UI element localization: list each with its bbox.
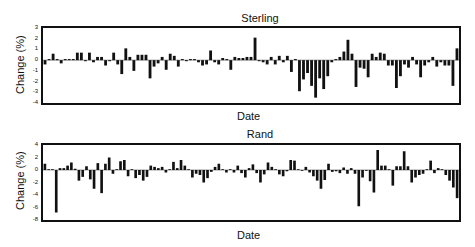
bar: [210, 170, 213, 172]
bar: [176, 168, 179, 170]
bar: [97, 163, 100, 170]
bar: [448, 170, 451, 181]
bar: [407, 166, 410, 170]
bar: [218, 164, 221, 170]
rand-x-axis-label: Date: [237, 229, 260, 241]
bar: [388, 169, 391, 170]
bar: [456, 170, 459, 198]
bar: [327, 164, 330, 170]
bar: [293, 161, 296, 170]
bar: [429, 161, 432, 170]
bar: [229, 169, 232, 170]
bar: [444, 170, 447, 175]
bar: [183, 166, 186, 170]
bar: [206, 170, 209, 178]
bar: [51, 169, 54, 170]
bar: [267, 163, 270, 171]
bar: [85, 166, 88, 170]
bar: [70, 163, 73, 171]
bar: [305, 167, 308, 170]
bar: [342, 168, 345, 171]
bar: [240, 170, 243, 173]
bar: [312, 170, 315, 176]
bar: [373, 170, 376, 193]
bar: [149, 166, 152, 170]
bar: [376, 150, 379, 170]
bar: [47, 169, 50, 170]
bar: [380, 166, 383, 170]
bar: [418, 170, 421, 175]
bar: [274, 169, 277, 170]
bar: [422, 170, 425, 174]
bar: [168, 169, 171, 170]
bar: [414, 170, 417, 178]
bar: [187, 169, 190, 170]
bar: [297, 169, 300, 170]
bar: [331, 170, 334, 172]
bar: [55, 170, 58, 213]
rand-chart: Rand Change (%) 420-2-4-6-8 Date: [0, 0, 475, 247]
bar: [115, 169, 118, 170]
bar: [146, 170, 149, 177]
bar: [131, 169, 134, 170]
bar: [138, 170, 141, 175]
bar: [399, 166, 402, 170]
bar: [127, 170, 130, 176]
bar: [403, 151, 406, 170]
bar: [93, 170, 96, 189]
bar: [365, 170, 368, 171]
bar: [157, 168, 160, 170]
bar: [81, 170, 84, 177]
bar: [395, 166, 398, 170]
bar: [78, 170, 81, 181]
bar: [452, 170, 455, 188]
bar: [225, 170, 228, 173]
bar: [119, 161, 122, 170]
bar: [282, 170, 285, 176]
bar: [74, 169, 77, 170]
bar: [286, 170, 289, 171]
bar: [172, 162, 175, 170]
bar: [361, 170, 364, 178]
bar: [236, 166, 239, 170]
bar: [354, 170, 357, 174]
bar: [199, 170, 202, 175]
bar: [308, 170, 311, 173]
bar: [437, 168, 440, 170]
bar: [123, 160, 126, 170]
bar: [346, 170, 349, 174]
rand-bars: [0, 0, 475, 247]
bar: [104, 164, 107, 170]
bar: [44, 164, 47, 170]
bar: [320, 170, 323, 189]
bar: [112, 170, 115, 174]
bar: [301, 170, 304, 171]
bar: [165, 170, 168, 173]
bar: [195, 170, 198, 174]
bar: [357, 170, 360, 206]
bar: [153, 167, 156, 170]
bar: [248, 168, 251, 170]
bar: [335, 170, 338, 171]
bar: [259, 170, 262, 183]
bar: [221, 169, 224, 170]
bar: [316, 170, 319, 181]
bar: [350, 168, 353, 170]
bar: [441, 169, 444, 170]
bar: [255, 170, 258, 173]
bar: [426, 169, 429, 170]
bar: [161, 167, 164, 170]
bar: [214, 167, 217, 170]
bar: [142, 170, 145, 181]
bar: [391, 170, 394, 186]
bar: [66, 166, 69, 170]
bar: [108, 158, 111, 171]
bar: [244, 170, 247, 178]
bar: [134, 170, 137, 178]
bar: [278, 170, 281, 174]
bar: [369, 170, 372, 181]
bar: [270, 167, 273, 170]
bar: [202, 170, 205, 183]
bar: [289, 160, 292, 170]
bar: [62, 168, 65, 170]
